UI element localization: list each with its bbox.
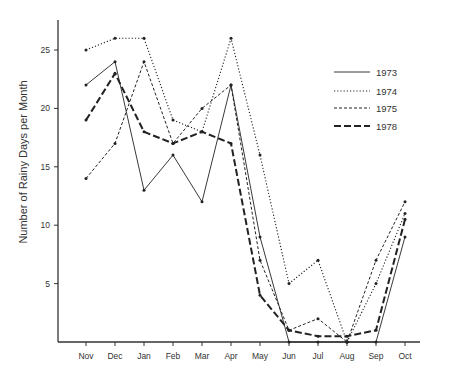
x-tick-label: Feb: [166, 351, 181, 361]
x-tick-label: Oct: [398, 351, 412, 361]
series-1974: [85, 37, 407, 344]
data-point: [317, 317, 320, 320]
y-tick-label: 20: [41, 103, 51, 113]
data-point: [114, 72, 117, 75]
data-point: [143, 189, 146, 192]
legend: 1973197419751978: [334, 67, 397, 132]
series-line: [86, 38, 405, 342]
data-point: [201, 130, 204, 133]
data-point: [85, 119, 88, 122]
legend-item-1973: 1973: [334, 67, 397, 78]
x-tick-label: Jan: [137, 351, 151, 361]
data-point: [375, 282, 378, 285]
series-1973: [85, 60, 407, 343]
data-point: [230, 84, 233, 87]
data-point: [259, 259, 262, 262]
data-point: [404, 235, 407, 238]
data-point: [230, 142, 233, 145]
data-point: [317, 335, 320, 338]
y-tick-label: 15: [41, 162, 51, 172]
data-point: [85, 49, 88, 52]
legend-label: 1974: [376, 86, 397, 97]
legend-label: 1975: [376, 103, 397, 114]
series-line: [86, 62, 405, 342]
data-point: [288, 329, 291, 332]
x-tick-label: Dec: [107, 351, 123, 361]
series-line: [86, 73, 405, 336]
data-point: [230, 37, 233, 40]
data-point: [172, 142, 175, 145]
x-tick-label: Jun: [282, 351, 296, 361]
data-point: [201, 200, 204, 203]
data-point: [143, 130, 146, 133]
x-tick-label: Mar: [195, 351, 210, 361]
data-point: [288, 282, 291, 285]
data-point: [143, 60, 146, 63]
x-tick-label: Sep: [368, 351, 383, 361]
data-point: [114, 37, 117, 40]
data-point: [85, 177, 88, 180]
legend-item-1974: 1974: [334, 86, 397, 97]
data-point: [404, 200, 407, 203]
x-axis-ticks: NovDecJanFebMarAprMayJunJulAugSepOct: [78, 342, 412, 361]
legend-item-1975: 1975: [334, 103, 397, 114]
data-point: [259, 154, 262, 157]
data-point: [375, 259, 378, 262]
legend-label: 1973: [376, 67, 397, 78]
data-point: [114, 142, 117, 145]
x-tick-label: May: [252, 351, 269, 361]
data-point: [317, 259, 320, 262]
data-point: [317, 341, 320, 344]
y-axis-label: Number of Rainy Days per Month: [17, 80, 29, 243]
data-point: [259, 235, 262, 238]
rainy-days-line-chart: Number of Rainy Days per Month 510152025…: [0, 0, 449, 382]
y-tick-label: 10: [41, 220, 51, 230]
x-tick-label: Jul: [313, 351, 324, 361]
series-line: [86, 62, 405, 342]
data-point: [375, 329, 378, 332]
legend-label: 1978: [376, 121, 397, 132]
data-point: [375, 341, 378, 344]
data-point: [172, 119, 175, 122]
legend-item-1978: 1978: [334, 121, 397, 132]
y-axis-ticks: 510152025: [41, 45, 58, 289]
data-point: [143, 37, 146, 40]
data-series: [85, 37, 407, 344]
x-tick-label: Apr: [224, 351, 237, 361]
data-point: [114, 60, 117, 63]
data-point: [346, 341, 349, 344]
y-tick-label: 25: [41, 45, 51, 55]
data-point: [201, 107, 204, 110]
data-point: [404, 218, 407, 221]
y-tick-label: 5: [45, 279, 50, 289]
data-point: [259, 294, 262, 297]
data-point: [172, 154, 175, 157]
data-point: [346, 335, 349, 338]
x-tick-label: Aug: [339, 351, 354, 361]
x-tick-label: Nov: [78, 351, 94, 361]
series-1978: [85, 72, 407, 338]
data-point: [288, 341, 291, 344]
data-point: [404, 212, 407, 215]
data-point: [85, 84, 88, 87]
series-1975: [85, 60, 407, 343]
